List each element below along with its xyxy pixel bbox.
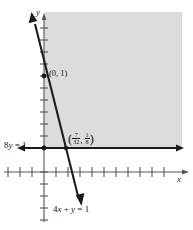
solution-region-shading (44, 12, 182, 148)
x-coordinate-fraction: 7 32 (72, 132, 80, 146)
equals-sign: = (13, 140, 23, 150)
x-axis-arrowhead (182, 170, 189, 175)
equals-sign-slanted: = (75, 204, 85, 214)
inequality-graph-figure: y x (0, 1) 8y = 1 ( 7 32 , 1 8 ) 4x + y … (0, 0, 193, 230)
y-axis-label: y (36, 8, 40, 17)
y-intercept-label-text: (0, 1) (49, 68, 67, 78)
intersection-dot (64, 146, 68, 150)
plus-sign: + (62, 204, 72, 214)
y-intercept-dot (42, 74, 47, 79)
intersection-point-label: ( 7 32 , 1 8 ) (68, 132, 94, 146)
x-axis-label: x (177, 175, 181, 184)
slanted-line-equation-label: 4x + y = 1 (53, 205, 89, 214)
y-intercept-label: (0, 1) (49, 69, 67, 78)
graph-canvas (0, 0, 193, 230)
rhs-1: 1 (22, 140, 27, 150)
rhs-1-slanted: 1 (85, 204, 90, 214)
origin-dot (42, 146, 47, 151)
x-axis (4, 167, 186, 177)
horizontal-line-equation-label: 8y = 1 (4, 141, 27, 150)
right-paren: ) (90, 132, 94, 145)
x-denominator: 32 (72, 138, 80, 145)
